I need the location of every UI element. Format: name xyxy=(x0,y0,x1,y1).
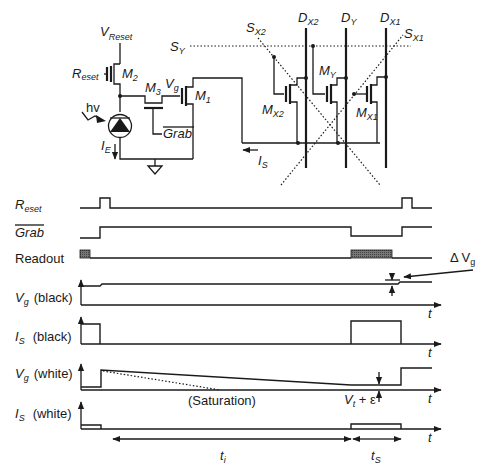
ti-label: ti xyxy=(220,448,227,465)
vt-eps-label: Vt + ε xyxy=(344,392,376,409)
timing-label-vg-white: Vg(white) xyxy=(15,366,73,383)
ie-label: IE xyxy=(101,138,112,155)
readout-pulse-2 xyxy=(351,250,392,258)
light-arrowhead-icon xyxy=(96,115,106,123)
timing-label-grab: Grab xyxy=(15,225,44,240)
is-label: IS xyxy=(258,153,268,170)
m2-label: M2 xyxy=(122,66,138,83)
is-white-t-label: t xyxy=(428,430,433,445)
grab-label: Grab xyxy=(163,126,192,141)
timing-label-reset: Reset xyxy=(15,197,42,214)
delta-vg-label: Δ Vg xyxy=(450,250,475,267)
timing-diagram: Reset Grab Readout Δ Vg Vg(black) t IS(b… xyxy=(15,197,475,465)
reset-waveform xyxy=(80,198,432,208)
mx2-label: MX2 xyxy=(262,102,284,119)
sx2-label: SX2 xyxy=(246,20,266,37)
sx1-select-line xyxy=(281,35,403,185)
sx1-label: SX1 xyxy=(404,26,424,43)
reset-gate-label: Reset xyxy=(72,66,99,82)
is-black-waveform xyxy=(81,321,401,344)
transistor-m1 xyxy=(182,78,242,159)
vg-white-t-label: t xyxy=(428,391,433,406)
transistor-mx2 xyxy=(272,55,308,145)
pixel-sensor-diagram: VReset Reset M2 M3 Grab Vg M1 xyxy=(0,0,488,476)
timing-label-readout: Readout xyxy=(15,251,65,266)
saturation-label: (Saturation) xyxy=(188,393,256,408)
sy-label: SY xyxy=(170,39,186,56)
m3-channel-wire xyxy=(120,96,180,103)
is-white-waveform xyxy=(81,424,401,429)
transistor-m2 xyxy=(104,64,120,96)
is-black-t-label: t xyxy=(428,345,433,360)
pixel-circuit: VReset Reset M2 M3 Grab Vg M1 xyxy=(72,10,424,185)
dx2-label: DX2 xyxy=(298,10,318,27)
transistor-my xyxy=(311,44,348,145)
hv-label: hv xyxy=(86,100,100,115)
dy-label: DY xyxy=(341,10,357,27)
ground-icon xyxy=(148,166,162,174)
timing-label-is-white: IS(white) xyxy=(15,406,72,423)
my-label: MY xyxy=(319,63,337,80)
m1-label: M1 xyxy=(195,88,211,105)
m3-label: M3 xyxy=(145,80,161,97)
v-reset-label: VReset xyxy=(100,24,133,42)
timing-label-vg-black: Vg(black) xyxy=(15,290,73,307)
vg-black-t-label: t xyxy=(428,306,433,321)
grab-waveform xyxy=(80,227,432,238)
delta-vg-pointer-icon xyxy=(404,270,473,277)
vg-label: Vg xyxy=(165,76,179,93)
timing-label-is-black: IS(black) xyxy=(15,329,72,346)
readout-pulse-1 xyxy=(80,250,90,258)
grab-wire xyxy=(153,108,162,134)
mx1-label: MX1 xyxy=(356,105,378,122)
ts-label: tS xyxy=(371,448,381,465)
vg-black-waveform xyxy=(81,282,432,286)
dx1-label: DX1 xyxy=(380,10,400,27)
